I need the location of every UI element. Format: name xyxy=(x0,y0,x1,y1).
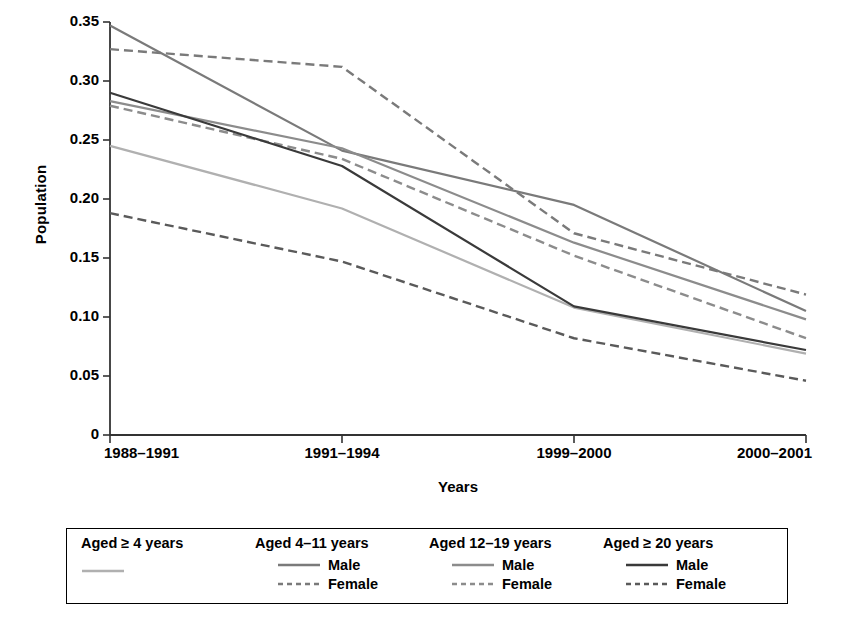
y-tick-label: 0.15 xyxy=(9,248,99,265)
legend-rows xyxy=(81,556,255,579)
legend-rows: MaleFemale xyxy=(603,556,777,592)
legend-group-title: Aged ≥ 4 years xyxy=(81,535,255,551)
legend-item[interactable]: Male xyxy=(451,556,603,573)
solid-line-swatch-icon xyxy=(451,559,495,571)
legend-group-title: Aged 12–19 years xyxy=(429,535,603,551)
legend-item-label: Female xyxy=(328,576,378,592)
legend-rows: MaleFemale xyxy=(255,556,429,592)
legend-item[interactable] xyxy=(81,562,255,579)
y-tick-label: 0 xyxy=(9,425,99,442)
y-tick-label: 0.35 xyxy=(9,12,99,29)
legend-item-label: Female xyxy=(502,576,552,592)
chart-legend: Aged ≥ 4 yearsAged 4–11 yearsMaleFemaleA… xyxy=(66,528,788,604)
legend-group: Aged 4–11 yearsMaleFemale xyxy=(255,535,429,597)
legend-item[interactable]: Female xyxy=(451,575,603,592)
series-line xyxy=(110,213,806,381)
series-line xyxy=(110,93,806,350)
legend-item-label: Female xyxy=(676,576,726,592)
x-axis-title: Years xyxy=(110,478,806,495)
dashed-line-swatch-icon xyxy=(277,578,321,590)
axis-lines xyxy=(110,22,806,435)
legend-group-title: Aged ≥ 20 years xyxy=(603,535,777,551)
legend-item[interactable]: Male xyxy=(625,556,777,573)
x-tick-label: 2000–2001 xyxy=(737,444,812,461)
dashed-line-swatch-icon xyxy=(451,578,495,590)
x-tick-label: 1999–2000 xyxy=(536,444,611,461)
figure-root: Population Years 00.050.100.150.200.250.… xyxy=(0,0,868,629)
legend-item[interactable]: Female xyxy=(625,575,777,592)
series-line xyxy=(110,101,806,319)
legend-group-title: Aged 4–11 years xyxy=(255,535,429,551)
solid-line-swatch-icon xyxy=(81,565,125,577)
data-series-layer xyxy=(110,26,806,381)
y-tick-label: 0.05 xyxy=(9,366,99,383)
legend-item[interactable]: Male xyxy=(277,556,429,573)
legend-group: Aged ≥ 20 yearsMaleFemale xyxy=(603,535,777,597)
y-tick-label: 0.20 xyxy=(9,189,99,206)
y-tick-marks xyxy=(103,22,110,435)
y-tick-label: 0.25 xyxy=(9,130,99,147)
dashed-line-swatch-icon xyxy=(625,578,669,590)
chart-plot-area: Population Years 00.050.100.150.200.250.… xyxy=(0,0,868,520)
legend-item-label: Male xyxy=(502,557,534,573)
chart-svg xyxy=(0,0,868,520)
x-tick-label: 1991–1994 xyxy=(304,444,379,461)
solid-line-swatch-icon xyxy=(625,559,669,571)
series-line xyxy=(110,106,806,338)
series-line xyxy=(110,26,806,312)
legend-item[interactable]: Female xyxy=(277,575,429,592)
y-tick-label: 0.10 xyxy=(9,307,99,324)
x-tick-marks xyxy=(110,435,806,443)
x-tick-label: 1988–1991 xyxy=(104,444,179,461)
legend-item-label: Male xyxy=(676,557,708,573)
solid-line-swatch-icon xyxy=(277,559,321,571)
y-tick-label: 0.30 xyxy=(9,71,99,88)
legend-group: Aged ≥ 4 years xyxy=(81,535,255,597)
legend-groups: Aged ≥ 4 yearsAged 4–11 yearsMaleFemaleA… xyxy=(67,529,787,603)
legend-group: Aged 12–19 yearsMaleFemale xyxy=(429,535,603,597)
legend-rows: MaleFemale xyxy=(429,556,603,592)
legend-item-label: Male xyxy=(328,557,360,573)
